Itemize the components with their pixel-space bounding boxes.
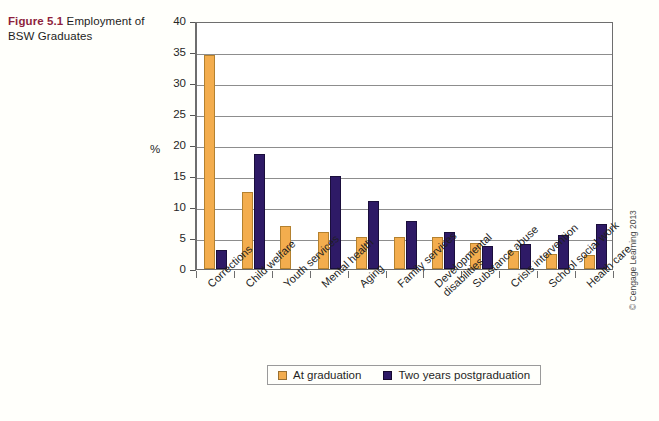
- chart-legend: At graduationTwo years postgraduation: [267, 365, 541, 385]
- legend-item: Two years postgraduation: [383, 369, 530, 381]
- x-axis-category-label: Aging: [357, 262, 386, 290]
- legend-item: At graduation: [278, 369, 361, 381]
- x-axis-labels: CorrectionsChild welfareYouth servicesMe…: [0, 0, 659, 421]
- legend-label: Two years postgraduation: [398, 369, 530, 381]
- x-axis-category-label: School social work: [546, 219, 621, 290]
- legend-label: At graduation: [293, 369, 361, 381]
- legend-swatch-postgraduation: [383, 371, 392, 380]
- x-axis-category-label: Crisis intervention: [508, 221, 580, 289]
- legend-swatch-at-graduation: [278, 371, 287, 380]
- copyright-notice: © Cengage Learning 2013: [628, 210, 638, 310]
